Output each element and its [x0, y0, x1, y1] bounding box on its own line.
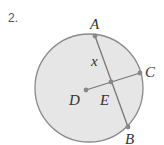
point-a — [93, 34, 98, 39]
label-d: D — [68, 92, 80, 108]
label-b: B — [125, 131, 134, 145]
label-x: x — [90, 53, 98, 69]
point-b — [126, 125, 131, 130]
circle-diagram: A B C D E x — [0, 0, 164, 145]
label-c: C — [145, 64, 156, 80]
label-e: E — [99, 92, 109, 108]
label-a: A — [89, 16, 100, 32]
point-d — [84, 88, 89, 93]
point-c — [138, 71, 143, 76]
point-e — [109, 80, 114, 85]
